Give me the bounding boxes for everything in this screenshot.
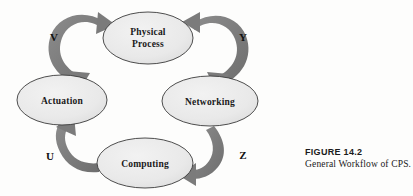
edge-label-v: V <box>50 31 58 43</box>
edge-label-z: Z <box>239 149 246 161</box>
node-label-computing: Computing <box>121 159 169 169</box>
figure-caption-title: FIGURE 14.2 <box>305 147 411 158</box>
node-computing[interactable]: Computing <box>97 138 193 188</box>
figure-caption-text: General Workflow of CPS. <box>305 159 411 171</box>
node-label-physical-process-line2: Process <box>132 39 164 49</box>
edge-label-y: Y <box>239 31 247 43</box>
node-actuation[interactable]: Actuation <box>17 75 107 125</box>
node-label-actuation: Actuation <box>41 96 83 106</box>
node-networking[interactable]: Networking <box>162 76 258 126</box>
node-label-networking: Networking <box>185 97 235 107</box>
figure-page: Physical Process Networking Computing Ac… <box>0 0 413 196</box>
edge-label-u: U <box>46 150 54 162</box>
node-physical-process[interactable]: Physical Process <box>103 12 193 64</box>
node-ellipse-physical-process <box>103 12 193 64</box>
figure-caption: FIGURE 14.2 General Workflow of CPS. <box>305 147 411 171</box>
node-label-physical-process-line1: Physical <box>130 27 166 37</box>
